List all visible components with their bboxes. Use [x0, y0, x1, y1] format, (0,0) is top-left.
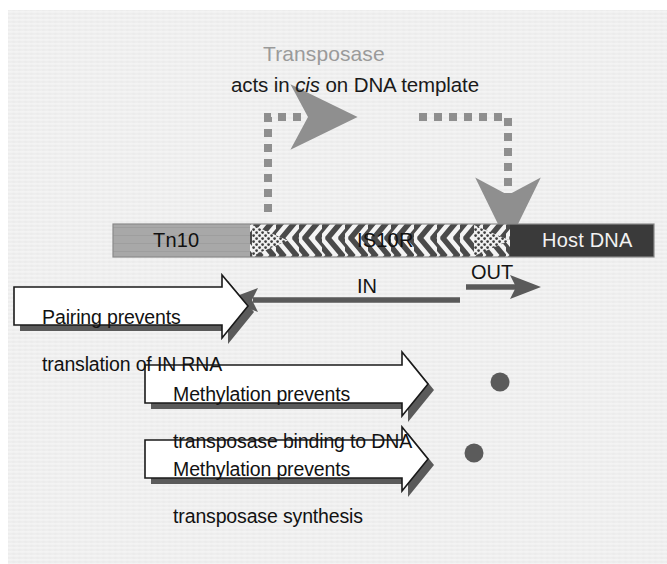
callout-label-synthesis: Methylation prevents transposase synthes…	[152, 434, 363, 553]
acts-in-cis-suffix: on DNA template	[320, 73, 479, 96]
dna-segment-label-is10r: IS10R	[357, 229, 414, 252]
callout-line-1: Pairing prevents	[42, 306, 181, 328]
transcript-in-arrow	[226, 288, 460, 312]
callout-line-2: transposase synthesis	[173, 505, 363, 527]
cis-word: cis	[295, 73, 320, 96]
dna-segment-label-tn10: Tn10	[153, 229, 199, 252]
transcript-label-out: OUT	[471, 261, 513, 283]
figure-root: Transposase acts in cis on DNA template …	[0, 0, 667, 564]
acts-in-cis-caption: acts in cis on DNA template	[231, 74, 479, 97]
acts-in-cis-right-dashed-arrow	[419, 117, 508, 203]
acts-in-cis-prefix: acts in	[231, 73, 295, 96]
dna-segment-label-host-dna: Host DNA	[542, 229, 633, 252]
transposase-heading: Transposase	[263, 42, 385, 66]
callout-line-1: Methylation prevents	[173, 383, 350, 405]
methylation-site-dot	[491, 373, 510, 392]
transcript-label-in: IN	[357, 275, 377, 297]
callout-line-1: Methylation prevents	[173, 458, 350, 480]
acts-in-cis-left-dashed-arrow	[268, 117, 316, 212]
methylation-site-dot	[465, 444, 484, 463]
